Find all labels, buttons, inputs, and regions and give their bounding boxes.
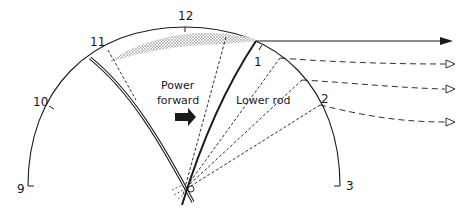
arrowhead-solid-icon <box>440 37 453 45</box>
label-3: 3 <box>346 179 354 193</box>
label-11: 11 <box>90 35 105 49</box>
tick-10 <box>49 106 54 109</box>
line-path-dashed-3 <box>320 105 445 122</box>
label-power: Power <box>161 79 195 92</box>
pivot-hand <box>188 186 194 192</box>
arrowhead-open-icon <box>446 60 455 68</box>
rod-lower-3 <box>191 105 320 186</box>
loop-stipple <box>108 33 258 63</box>
label-lower-rod: Lower rod <box>236 94 290 107</box>
diagram-canvas: 9 10 11 12 1 2 3 Power forward Lower rod <box>0 0 475 213</box>
casting-diagram: 9 10 11 12 1 2 3 Power forward Lower rod <box>0 0 475 213</box>
arrowhead-open-icon <box>446 118 455 126</box>
label-10: 10 <box>33 95 48 109</box>
tick-1 <box>259 45 262 50</box>
rod-power-position <box>182 41 256 205</box>
label-forward: forward <box>157 94 199 107</box>
label-9: 9 <box>17 182 25 196</box>
arrowhead-open-icon <box>446 85 455 93</box>
label-1: 1 <box>254 55 262 69</box>
line-path-dashed-2 <box>302 80 445 89</box>
label-2: 2 <box>321 92 329 106</box>
line-path-dashed-1 <box>280 58 445 64</box>
label-12: 12 <box>178 9 193 23</box>
power-forward-arrow-icon <box>175 108 196 126</box>
